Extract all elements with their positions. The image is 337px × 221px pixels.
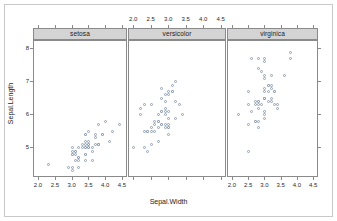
x-tick-bottom [248, 177, 249, 180]
x-tick-label-bottom: 4.5 [113, 182, 131, 188]
x-tick-bottom [105, 177, 106, 180]
data-point [276, 103, 279, 106]
data-point [71, 146, 74, 149]
y-tick-right [318, 48, 321, 49]
data-point [94, 136, 97, 139]
data-point [273, 90, 276, 93]
data-point [150, 143, 153, 146]
data-point [71, 166, 74, 169]
x-tick-top [133, 25, 134, 28]
data-point [160, 110, 163, 113]
x-tick-label-top: 3.0 [159, 16, 177, 22]
data-point [153, 130, 156, 133]
data-point [101, 133, 104, 136]
x-tick-label-top: 2.5 [142, 16, 160, 22]
x-tick-label-bottom: 3.0 [63, 182, 81, 188]
data-point [157, 126, 160, 129]
data-point [247, 90, 250, 93]
data-point [160, 97, 163, 100]
x-tick-top [38, 25, 39, 28]
data-point [167, 126, 170, 129]
x-tick-bottom [297, 177, 298, 180]
data-point [87, 130, 90, 133]
x-tick-bottom [72, 177, 73, 180]
data-point [267, 100, 270, 103]
data-point [257, 126, 260, 129]
strip-label: setosa [70, 31, 90, 38]
x-tick-label-top: 4.5 [212, 16, 230, 22]
data-point [260, 103, 263, 106]
y-tick-left [30, 114, 33, 115]
data-point [167, 93, 170, 96]
x-tick-bottom [221, 177, 222, 180]
data-point [267, 84, 270, 87]
data-point [263, 74, 266, 77]
data-point [153, 123, 156, 126]
data-point [67, 166, 70, 169]
data-point [263, 113, 266, 116]
x-tick-bottom [55, 177, 56, 180]
x-tick-bottom [38, 177, 39, 180]
data-point [263, 60, 266, 63]
y-tick-right [318, 81, 321, 82]
x-tick-top [88, 25, 89, 28]
strip-label: virginica [260, 31, 285, 38]
data-point [91, 159, 94, 162]
x-tick-top [264, 25, 265, 28]
data-point [250, 57, 253, 60]
data-point [97, 123, 100, 126]
data-point [276, 107, 279, 110]
data-point [263, 77, 266, 80]
data-point [143, 146, 146, 149]
data-point [71, 153, 74, 156]
x-tick-bottom [232, 177, 233, 180]
x-tick-bottom [133, 177, 134, 180]
data-point [77, 159, 80, 162]
data-point [167, 90, 170, 93]
data-point [160, 87, 163, 90]
data-point [71, 169, 74, 172]
y-tick-label: 6 [20, 111, 29, 117]
x-tick-label-top: 3.5 [177, 16, 195, 22]
data-point [267, 90, 270, 93]
y-tick-right [318, 147, 321, 148]
data-point [263, 97, 266, 100]
x-tick-top [297, 25, 298, 28]
x-tick-bottom [264, 177, 265, 180]
x-tick-label-top: 4.0 [194, 16, 212, 22]
x-tick-top [203, 25, 204, 28]
data-point [263, 117, 266, 120]
x-tick-top [105, 25, 106, 28]
data-point [237, 113, 240, 116]
data-point [81, 146, 84, 149]
data-point [174, 80, 177, 83]
data-point [270, 87, 273, 90]
data-point [171, 84, 174, 87]
y-axis-title: Sepal.Length [7, 56, 14, 152]
data-point [270, 74, 273, 77]
x-tick-label-bottom: 2.5 [46, 182, 64, 188]
data-point [111, 130, 114, 133]
data-point [247, 123, 250, 126]
data-point [283, 74, 286, 77]
x-tick-bottom [186, 177, 187, 180]
data-point [143, 103, 146, 106]
x-tick-top [221, 25, 222, 28]
x-axis-title: Sepal.Width [0, 198, 337, 205]
x-tick-bottom [168, 177, 169, 180]
x-tick-top [186, 25, 187, 28]
strip-header-versicolor: versicolor [128, 28, 226, 40]
data-point [167, 123, 170, 126]
x-tick-bottom [88, 177, 89, 180]
x-tick-top [168, 25, 169, 28]
scatter-panel-virginica [227, 40, 318, 177]
data-point [146, 150, 149, 153]
strip-header-setosa: setosa [33, 28, 127, 40]
data-point [167, 110, 170, 113]
y-tick-label: 5 [20, 144, 29, 150]
x-tick-label-bottom: 4.5 [304, 182, 322, 188]
y-tick-left [30, 81, 33, 82]
data-point [270, 100, 273, 103]
data-point [164, 100, 167, 103]
data-point [263, 90, 266, 93]
